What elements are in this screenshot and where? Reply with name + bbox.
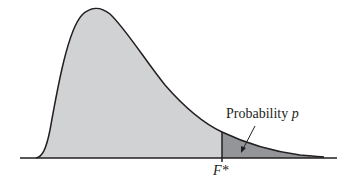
body-region xyxy=(36,8,222,158)
probability-label: Probability p xyxy=(226,106,299,122)
density-plot xyxy=(0,0,357,182)
probability-variable: p xyxy=(292,106,299,121)
tail-region xyxy=(222,132,324,158)
critical-value-label: F* xyxy=(213,163,229,179)
f-distribution-diagram: Probability p F* xyxy=(0,0,357,182)
probability-text: Probability xyxy=(226,106,292,121)
